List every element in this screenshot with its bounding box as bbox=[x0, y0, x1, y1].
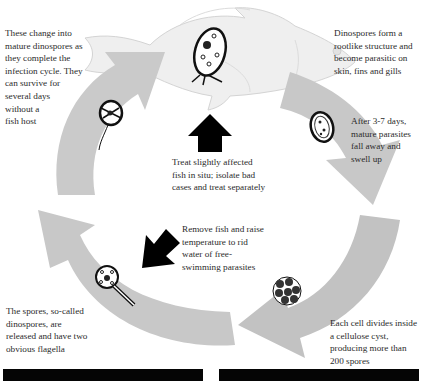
treatment-label-remove-fish: Remove fish and raise temperature to rid… bbox=[182, 223, 282, 273]
stage-label-mature-dinospores: These change into mature dinospores as t… bbox=[5, 27, 105, 128]
treatment-arrow-up-icon bbox=[188, 114, 232, 152]
bottom-image-right bbox=[219, 369, 419, 381]
stage-label-cyst: Each cell divides inside a cellulose cys… bbox=[330, 317, 421, 367]
stage-label-dinospores-released: The spores, so-called dinospores, are re… bbox=[6, 305, 106, 355]
treatment-label-treat-in-situ: Treat slightly affected fish in situ; is… bbox=[172, 156, 292, 194]
cyst-icon bbox=[273, 277, 301, 305]
stage-label-fall-away: After 3-7 days, mature parasites fall aw… bbox=[351, 115, 421, 165]
bottom-image-left bbox=[3, 369, 203, 381]
stage-label-attached: Dinospores form a rootlike structure and… bbox=[334, 27, 421, 77]
treatment-arrow-down-left-icon bbox=[142, 229, 180, 268]
